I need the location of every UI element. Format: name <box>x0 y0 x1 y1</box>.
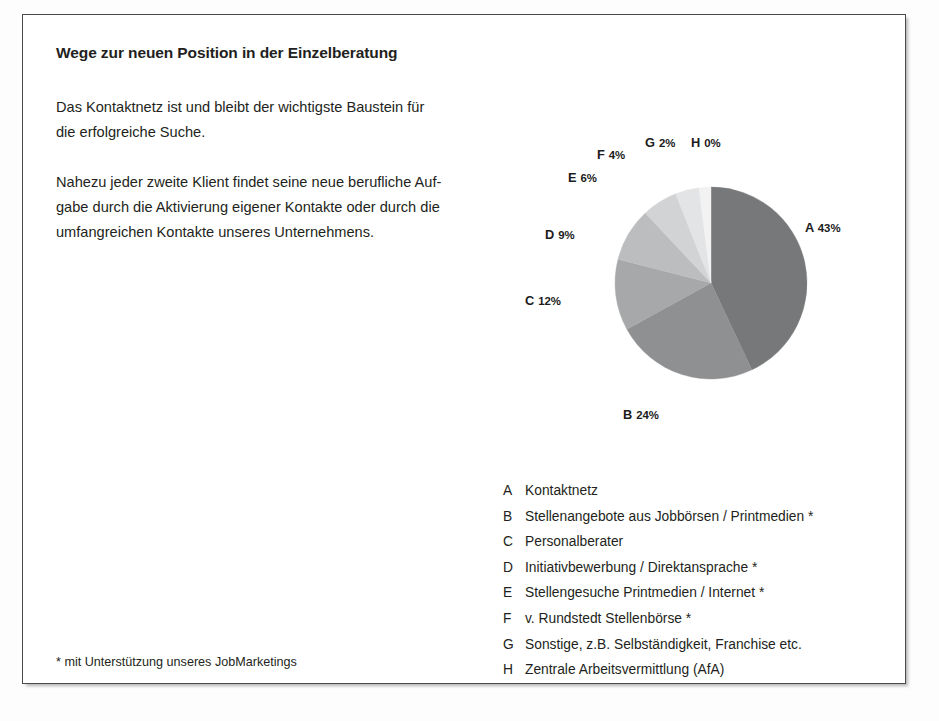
pie-slice-label-key: G <box>645 135 659 150</box>
paragraph-2-line-1: Nahezu jeder zweite Klient findet seine … <box>56 170 486 195</box>
legend-item-label: Sonstige, z.B. Selbständigkeit, Franchis… <box>525 637 802 652</box>
legend-item-b: BStellenangebote aus Jobbörsen / Printme… <box>503 509 903 535</box>
pie-slice-label-h: H 0% <box>691 135 721 150</box>
pie-slice-label-c: C 12% <box>525 293 561 308</box>
legend-item-label: Zentrale Arbeitsvermittlung (AfA) <box>525 662 724 677</box>
legend-item-key: E <box>503 585 525 600</box>
paragraph-1-line-1: Das Kontaktnetz ist und bleibt der wicht… <box>56 95 486 120</box>
pie-slice-label-e: E 6% <box>568 170 597 185</box>
legend-item-label: Stellengesuche Printmedien / Internet * <box>525 585 764 600</box>
legend-item-label: v. Rundstedt Stellenbörse * <box>525 611 691 626</box>
legend-item-e: EStellengesuche Printmedien / Internet * <box>503 585 903 611</box>
footnote-text: * mit Unterstützung unseres JobMarketing… <box>56 655 297 669</box>
page-title: Wege zur neuen Position in der Einzelber… <box>56 44 397 62</box>
pie-slice-label-g: G 2% <box>645 135 675 150</box>
content-frame: Wege zur neuen Position in der Einzelber… <box>22 14 906 684</box>
pie-slice-label-pct: 9% <box>558 229 574 241</box>
pie-slice-label-key: E <box>568 170 581 185</box>
pie-slice-label-a: A 43% <box>805 220 841 235</box>
legend-item-f: Fv. Rundstedt Stellenbörse * <box>503 611 903 637</box>
pie-slice-label-key: D <box>545 227 558 242</box>
legend-item-c: CPersonalberater <box>503 534 903 560</box>
legend-item-label: Initiativbewerbung / Direktansprache * <box>525 560 757 575</box>
pie-slice-label-f: F 4% <box>597 147 625 162</box>
pie-slice-label-key: H <box>691 135 704 150</box>
legend-item-label: Kontaktnetz <box>525 483 598 498</box>
legend-item-key: F <box>503 611 525 626</box>
pie-slice-label-pct: 6% <box>581 172 597 184</box>
legend-item-label: Personalberater <box>525 534 623 549</box>
legend-item-key: G <box>503 637 525 652</box>
pie-slice-label-key: A <box>805 220 818 235</box>
legend-item-label: Stellenangebote aus Jobbörsen / Printmed… <box>525 509 813 524</box>
legend-item-key: A <box>503 483 525 498</box>
pie-chart-canvas: A 43%B 24%C 12%D 9%E 6%F 4%G 2%H 0% <box>493 115 933 455</box>
pie-slice-label-pct: 12% <box>538 295 561 307</box>
legend-item-key: H <box>503 662 525 677</box>
pie-slice-label-pct: 4% <box>609 149 625 161</box>
legend-item-g: GSonstige, z.B. Selbständigkeit, Franchi… <box>503 637 903 663</box>
pie-slice-label-key: C <box>525 293 538 308</box>
pie-slice-label-b: B 24% <box>623 407 659 422</box>
pie-slice-label-pct: 24% <box>636 409 659 421</box>
pie-slice-label-pct: 43% <box>818 222 841 234</box>
chart-legend: AKontaktnetzBStellenangebote aus Jobbörs… <box>503 483 903 688</box>
pie-slice-label-d: D 9% <box>545 227 575 242</box>
intro-paragraph-1: Das Kontaktnetz ist und bleibt der wicht… <box>56 95 486 145</box>
legend-item-a: AKontaktnetz <box>503 483 903 509</box>
legend-item-key: B <box>503 509 525 524</box>
legend-item-h: HZentrale Arbeitsvermittlung (AfA) <box>503 662 903 688</box>
paragraph-1-line-2: die erfolgreiche Suche. <box>56 120 486 145</box>
legend-item-key: D <box>503 560 525 575</box>
paragraph-2-line-2: gabe durch die Aktivierung eigener Konta… <box>56 195 486 220</box>
intro-paragraph-2: Nahezu jeder zweite Klient findet seine … <box>56 170 486 245</box>
paragraph-2-line-3: umfangreichen Kontakte unseres Unternehm… <box>56 220 486 245</box>
pie-slice-label-key: F <box>597 147 609 162</box>
legend-item-d: DInitiativbewerbung / Direktansprache * <box>503 560 903 586</box>
pie-slice-label-pct: 2% <box>659 137 675 149</box>
pie-chart-svg <box>493 115 933 455</box>
legend-item-key: C <box>503 534 525 549</box>
pie-slice-label-pct: 0% <box>704 137 720 149</box>
page-background: Wege zur neuen Position in der Einzelber… <box>0 0 939 721</box>
pie-slice-label-key: B <box>623 407 636 422</box>
pie-chart: A 43%B 24%C 12%D 9%E 6%F 4%G 2%H 0% <box>493 115 933 455</box>
